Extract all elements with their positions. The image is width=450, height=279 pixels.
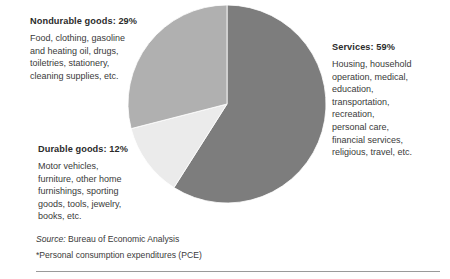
- callout-nondurable-line-3: toiletries, stationery,: [30, 57, 137, 70]
- callout-nondurable-line-1: Food, clothing, gasoline: [30, 32, 137, 45]
- callout-services-line-4: transportation,: [332, 96, 412, 109]
- callout-services-body: Housing, household operation, medical, e…: [332, 58, 412, 159]
- callout-durable-line-3: furnishings, sporting: [38, 185, 128, 198]
- callout-durable-line-4: goods, tools, jewelry,: [38, 198, 128, 211]
- callout-durable-heading: Durable goods: 12%: [38, 144, 128, 154]
- callout-durable-goods: Durable goods: 12% Motor vehicles, furni…: [38, 144, 128, 223]
- callout-nondurable-line-2: and heating oil, drugs,: [30, 45, 137, 58]
- callout-durable-line-1: Motor vehicles,: [38, 160, 128, 173]
- callout-services-line-2: operation, medical,: [332, 71, 412, 84]
- callout-services-line-8: religious, travel, etc.: [332, 146, 412, 159]
- pie-chart-svg: [127, 4, 327, 204]
- callout-durable-line-5: books, etc.: [38, 210, 128, 223]
- callout-services-line-3: education,: [332, 83, 412, 96]
- source-text: Bureau of Economic Analysis: [66, 234, 180, 244]
- bottom-rule: [36, 271, 440, 272]
- callout-nondurable-line-4: cleaning supplies, etc.: [30, 70, 137, 83]
- callout-services-heading: Services: 59%: [332, 42, 412, 52]
- callout-services: Services: 59% Housing, household operati…: [332, 42, 412, 159]
- footnote-line: *Personal consumption expenditures (PCE): [36, 250, 436, 260]
- callout-nondurable-heading: Nondurable goods: 29%: [30, 16, 137, 26]
- callout-durable-body: Motor vehicles, furniture, other home fu…: [38, 160, 128, 223]
- callout-nondurable-body: Food, clothing, gasoline and heating oil…: [30, 32, 137, 82]
- source-line: Source: Bureau of Economic Analysis: [36, 234, 436, 244]
- callout-services-line-1: Housing, household: [332, 58, 412, 71]
- pie-chart: [127, 4, 327, 204]
- callout-services-line-5: recreation,: [332, 108, 412, 121]
- pie-chart-figure: Nondurable goods: 29% Food, clothing, ga…: [0, 0, 450, 279]
- callout-services-line-6: personal care,: [332, 121, 412, 134]
- source-label: Source:: [36, 234, 66, 244]
- callout-services-line-7: financial services,: [332, 134, 412, 147]
- figure-footer: Source: Bureau of Economic Analysis *Per…: [36, 234, 436, 260]
- callout-nondurable-goods: Nondurable goods: 29% Food, clothing, ga…: [30, 16, 137, 82]
- callout-durable-line-2: furniture, other home: [38, 173, 128, 186]
